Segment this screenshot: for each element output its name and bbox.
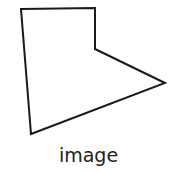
figure-caption: image [0,144,177,166]
polygon-shape [21,8,165,134]
